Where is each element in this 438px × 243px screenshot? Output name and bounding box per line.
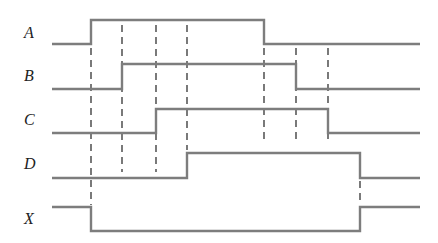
- timing-diagram: A B C D X: [0, 0, 438, 243]
- signal-waveforms: [52, 20, 420, 231]
- signal-wave-a: [52, 20, 420, 44]
- signal-wave-d: [52, 153, 420, 178]
- signal-label-d: D: [24, 156, 36, 172]
- waveform-canvas: [0, 0, 438, 243]
- signal-label-b: B: [24, 68, 34, 84]
- signal-wave-c: [52, 109, 420, 133]
- signal-label-c: C: [24, 112, 35, 128]
- signal-label-a: A: [24, 25, 34, 41]
- signal-wave-x: [52, 207, 420, 231]
- signal-wave-b: [52, 64, 420, 89]
- signal-label-x: X: [24, 211, 34, 227]
